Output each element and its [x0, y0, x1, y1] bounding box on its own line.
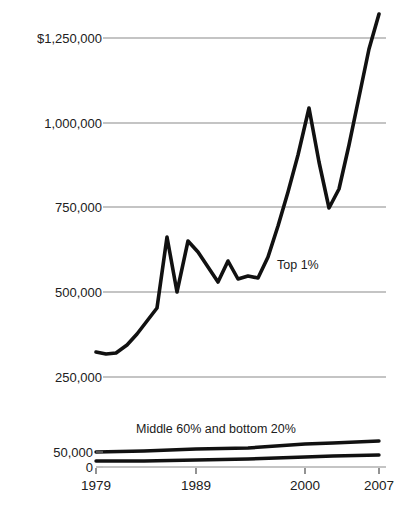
chart-canvas	[0, 0, 412, 514]
top-panel-series	[96, 14, 379, 354]
ytick-label-50000: 50,000	[10, 445, 93, 460]
ytick-label-1000000: 1,000,000	[10, 116, 102, 131]
xtick-label-1989: 1989	[166, 478, 226, 493]
ytick-label-250000: 250,000	[10, 370, 102, 385]
income-inequality-chart: $1,250,000 1,000,000 750,000 500,000 250…	[0, 0, 412, 514]
middle-60-percent-line	[96, 441, 379, 452]
top-1-percent-line	[96, 14, 379, 354]
ytick-label-0: 0	[10, 460, 93, 475]
ytick-label-500000: 500,000	[10, 285, 102, 300]
xtick-label-2007: 2007	[349, 478, 409, 493]
bottom-20-percent-line	[96, 455, 379, 461]
series-annotation-top-1-percent: Top 1%	[277, 258, 319, 272]
series-annotation-middle-bottom: Middle 60% and bottom 20%	[136, 422, 296, 436]
gridlines	[103, 38, 386, 377]
x-axis-ticks	[96, 468, 379, 474]
bottom-panel	[96, 441, 386, 467]
xtick-label-1979: 1979	[66, 478, 126, 493]
ytick-label-1250000: $1,250,000	[10, 31, 102, 46]
ytick-label-750000: 750,000	[10, 200, 102, 215]
xtick-label-2000: 2000	[275, 478, 335, 493]
